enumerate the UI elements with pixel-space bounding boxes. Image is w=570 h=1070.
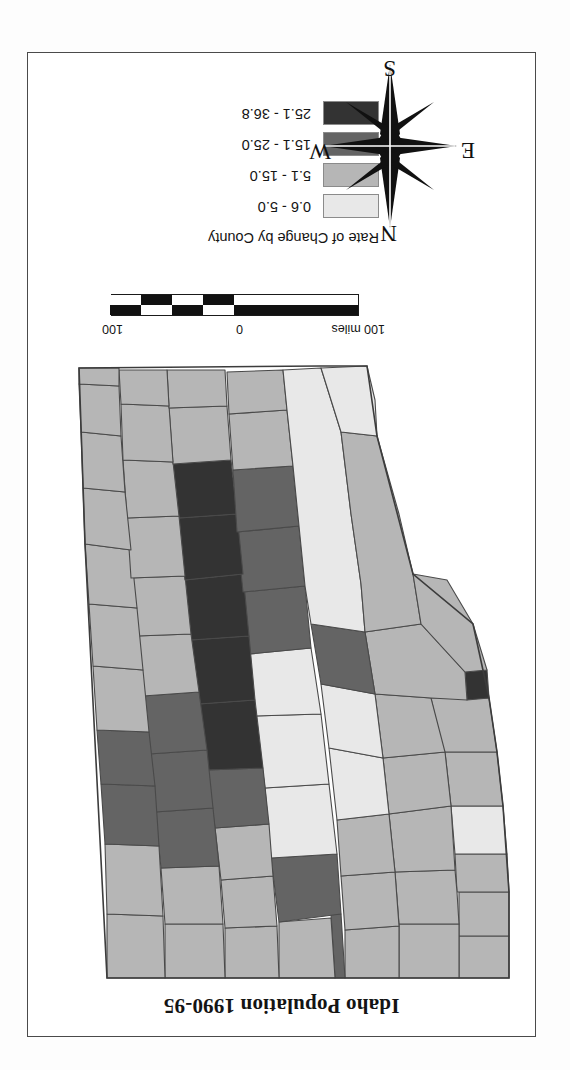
scale-label-left: 100 miles: [332, 322, 386, 336]
scale-bar: 100 miles 0 100: [85, 278, 385, 336]
county-polygon: [311, 624, 375, 694]
county-polygon: [119, 370, 169, 406]
county-polygon: [165, 924, 225, 978]
county-polygon: [83, 488, 131, 550]
county-polygon: [79, 368, 119, 386]
county-polygon: [101, 784, 159, 846]
county-polygon: [161, 866, 223, 924]
county-polygon: [149, 750, 213, 812]
county-polygon: [137, 634, 199, 696]
legend-label: 25.1 - 36.8: [242, 106, 311, 122]
county-polygon: [215, 824, 273, 880]
county-polygon: [459, 936, 509, 978]
county-polygon: [97, 730, 155, 786]
county-polygon: [459, 892, 509, 936]
county-polygon: [265, 784, 337, 858]
county-polygon: [131, 576, 191, 636]
county-polygon: [399, 924, 459, 978]
county-polygon: [107, 914, 165, 978]
scale-cell: [110, 295, 141, 305]
page-title: Idaho Population 1990-95: [28, 993, 535, 1018]
compass-label-north: N: [380, 220, 397, 246]
county-polygon: [127, 516, 185, 578]
county-polygon: [321, 684, 383, 758]
county-polygon: [341, 872, 399, 930]
county-polygon: [105, 844, 163, 916]
scale-cell: [172, 305, 203, 315]
legend-label: 15.1 - 25.0: [242, 137, 311, 153]
county-polygon: [199, 700, 263, 770]
scale-cell: [203, 295, 234, 305]
county-polygon: [271, 854, 341, 922]
county-polygon: [255, 714, 329, 788]
scale-bar-graphic: [111, 294, 359, 316]
idaho-county-choropleth-svg: [47, 354, 517, 984]
scale-cell: [234, 305, 358, 315]
county-polygon: [225, 926, 279, 978]
county-polygon: [121, 404, 173, 462]
county-polygon: [451, 806, 507, 854]
county-polygon: [227, 370, 287, 414]
scale-cell: [172, 295, 203, 305]
county-polygon: [237, 526, 305, 592]
scale-label-mid: 0: [236, 322, 243, 336]
map-plate: Idaho Population 1990-95: [0, 0, 570, 1070]
county-polygon: [455, 854, 509, 892]
compass-label-west: W: [309, 138, 331, 164]
county-polygon: [89, 604, 143, 670]
scale-cell: [141, 305, 172, 315]
compass-label-south: S: [383, 55, 396, 81]
county-polygon: [389, 806, 455, 872]
legend-label: 0.6 - 5.0: [258, 199, 311, 215]
county-polygon: [221, 876, 277, 928]
county-polygon: [185, 574, 249, 640]
compass-label-east: E: [461, 137, 475, 163]
county-polygon: [279, 918, 335, 978]
scale-cell: [110, 305, 141, 315]
figure-frame: Idaho Population 1990-95: [27, 52, 536, 1037]
county-polygon: [191, 636, 255, 704]
county-polygon: [93, 666, 149, 732]
county-polygon: [123, 460, 179, 518]
compass-rose: N S E W: [305, 46, 475, 246]
county-polygon: [207, 768, 269, 828]
county-polygon: [329, 748, 389, 820]
county-polygon: [445, 752, 503, 806]
county-polygon: [169, 406, 231, 464]
map-canvas: [47, 354, 517, 984]
county-polygon: [345, 926, 399, 978]
county-polygon: [143, 692, 207, 754]
scale-cell: [234, 295, 358, 305]
county-polygon: [243, 586, 311, 654]
county-polygon: [395, 870, 459, 924]
scale-cell: [141, 295, 172, 305]
county-polygon: [383, 752, 451, 814]
county-polygon: [167, 370, 227, 408]
county-polygon: [81, 432, 125, 492]
county-polygon: [249, 648, 321, 716]
scale-cell: [203, 305, 234, 315]
county-polygon: [233, 466, 299, 532]
scale-bar-labels: 100 miles 0 100: [85, 318, 385, 336]
scale-label-right: 100: [102, 322, 123, 336]
county-polygon: [155, 808, 219, 868]
county-polygon: [79, 384, 121, 436]
county-polygon: [173, 460, 237, 518]
legend-label: 5.1 - 15.0: [250, 168, 311, 184]
county-polygon: [337, 814, 395, 876]
county-polygon: [229, 410, 293, 470]
county-polygon: [179, 514, 243, 580]
